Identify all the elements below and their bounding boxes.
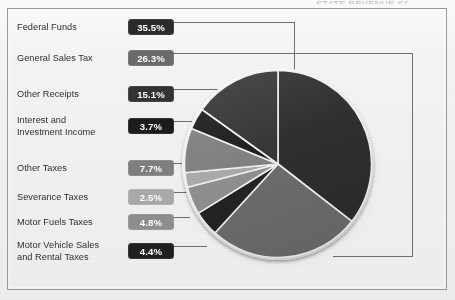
cropped-title-sliver: STATE REVENUE SOURCES: [316, 0, 408, 4]
legend-value-badge: 2.5%: [128, 189, 174, 205]
legend-value-badge: 4.8%: [128, 214, 174, 230]
legend-row: General Sales Tax26.3%: [17, 45, 177, 71]
legend-value-badge: 3.7%: [128, 118, 174, 134]
legend-row: Motor Vehicle Salesand Rental Taxes4.4%: [17, 238, 177, 264]
legend-label: Federal Funds: [17, 22, 121, 33]
leader-line-federal-funds-h: [157, 22, 295, 23]
leader-line-general-sales-tax-v: [412, 53, 413, 257]
legend-label: Interest andInvestment Income: [17, 115, 121, 138]
pie-slices: [182, 68, 374, 260]
legend-value-badge: 26.3%: [128, 50, 174, 66]
legend-row: Federal Funds35.5%: [17, 14, 177, 40]
legend-value-badge: 7.7%: [128, 160, 174, 176]
legend-label: General Sales Tax: [17, 53, 121, 64]
legend-value-badge: 35.5%: [128, 19, 174, 35]
legend-label: Other Receipts: [17, 89, 121, 100]
leader-line-federal-funds-v: [294, 22, 295, 72]
legend-label: Motor Fuels Taxes: [17, 217, 121, 228]
legend-row: Interest andInvestment Income3.7%: [17, 113, 177, 139]
legend-row: Other Receipts15.1%: [17, 81, 177, 107]
legend-label: Severance Taxes: [17, 192, 121, 203]
legend-row: Other Taxes7.7%: [17, 155, 177, 181]
legend-value-badge: 15.1%: [128, 86, 174, 102]
leader-line-general-sales-tax-h1: [157, 53, 413, 54]
legend-label: Motor Vehicle Salesand Rental Taxes: [17, 240, 121, 263]
pie-chart: [182, 68, 374, 260]
legend-label: Other Taxes: [17, 163, 121, 174]
legend-row: Motor Fuels Taxes4.8%: [17, 209, 177, 235]
legend-row: Severance Taxes2.5%: [17, 184, 177, 210]
legend-value-badge: 4.4%: [128, 243, 174, 259]
pie-chart-figure: STATE REVENUE SOURCES Federal Funds35.5%…: [0, 0, 455, 300]
